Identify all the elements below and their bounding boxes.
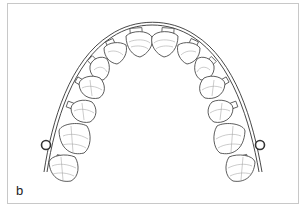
tooth-left-second-molar xyxy=(49,155,78,181)
tooth-left-second-premolar xyxy=(71,100,96,122)
teeth-left xyxy=(49,32,152,182)
dental-arch-illustration xyxy=(0,0,304,209)
omega-loop-right xyxy=(256,141,265,150)
tooth-right-first-molar xyxy=(214,124,245,154)
panel-label: b xyxy=(16,183,23,198)
tooth-left-first-premolar xyxy=(79,76,104,98)
tooth-right-second-premolar xyxy=(208,100,233,122)
omega-loop-left xyxy=(42,141,51,150)
teeth-right xyxy=(152,32,255,182)
tooth-left-first-molar xyxy=(59,124,90,154)
tooth-right-central-incisor xyxy=(152,32,178,57)
tooth-right-first-premolar xyxy=(200,76,225,98)
tooth-left-central-incisor xyxy=(126,32,152,57)
tooth-right-second-molar xyxy=(226,155,255,181)
